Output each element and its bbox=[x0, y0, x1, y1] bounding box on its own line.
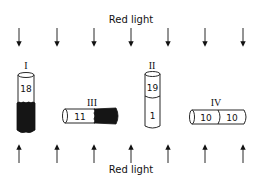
tube-iii-label: III bbox=[87, 97, 97, 108]
tube-i-segment-value: 18 bbox=[20, 84, 32, 94]
tube-iv-left-value: 10 bbox=[200, 113, 212, 123]
tube-ii-top-value: 19 bbox=[147, 83, 159, 93]
tube-iv-label: IV bbox=[211, 97, 222, 108]
bottom-arrows bbox=[19, 147, 243, 163]
tube-ii-label: II bbox=[149, 60, 156, 71]
tube-i-dark-segment bbox=[17, 102, 35, 133]
tube-ii-bottom-value: 1 bbox=[150, 111, 156, 121]
tube-iii: III 11 bbox=[63, 97, 119, 124]
tube-ii: II 19 1 bbox=[145, 60, 160, 128]
diagram-canvas: Red light I 18 II 19 1 III 11 IV bbox=[0, 0, 262, 188]
top-arrows bbox=[19, 28, 243, 44]
tube-iii-segment-value: 11 bbox=[74, 112, 85, 122]
bottom-red-light-label: Red light bbox=[109, 164, 153, 175]
tube-iii-dark-segment bbox=[94, 108, 118, 124]
tube-iv-right-value: 10 bbox=[226, 113, 238, 123]
tube-i: I 18 bbox=[17, 60, 35, 133]
top-red-light-label: Red light bbox=[109, 14, 153, 25]
tube-i-label: I bbox=[24, 60, 27, 71]
tube-iv: IV 10 10 bbox=[190, 97, 247, 124]
